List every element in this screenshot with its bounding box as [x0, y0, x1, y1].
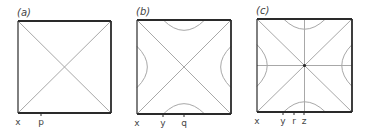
tick-label-z: z — [302, 116, 307, 126]
tick-label-y: y — [160, 118, 166, 128]
tick-label-q: q — [181, 118, 187, 128]
tick-label-y: y — [280, 116, 286, 126]
curve-left — [137, 46, 147, 87]
tick-label-x: x — [134, 118, 140, 128]
center-point — [303, 64, 306, 67]
panel-label: (c) — [256, 5, 269, 16]
curve-right — [221, 46, 231, 87]
panel-b: (b)xyq — [134, 6, 231, 128]
tick-label-x: x — [254, 116, 260, 126]
diagram-canvas: (a)xp(b)xyq(c)xyrz — [0, 0, 370, 133]
curve-top — [163, 20, 204, 30]
tick-label-r: r — [292, 116, 296, 126]
panel-c: (c)xyrz — [254, 5, 352, 126]
tick-label-p: p — [38, 117, 44, 127]
panel-a: (a)xp — [15, 7, 111, 127]
curve-bottom — [163, 104, 204, 114]
panel-label: (b) — [136, 6, 150, 17]
tick-label-x: x — [15, 117, 21, 127]
panel-label: (a) — [17, 7, 31, 18]
